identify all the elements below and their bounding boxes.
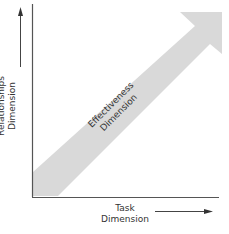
y-axis-label-line1: Relationships xyxy=(0,71,7,141)
relationships-arrow-icon xyxy=(18,7,23,67)
y-axis-label-line2: Dimension xyxy=(7,71,18,141)
task-arrow-icon xyxy=(155,209,213,214)
y-axis-label: Relationships Dimension xyxy=(0,71,18,141)
x-axis-label: Task Dimension xyxy=(100,203,150,225)
x-axis-label-line1: Task xyxy=(100,203,150,214)
x-axis-label-line2: Dimension xyxy=(100,214,150,225)
